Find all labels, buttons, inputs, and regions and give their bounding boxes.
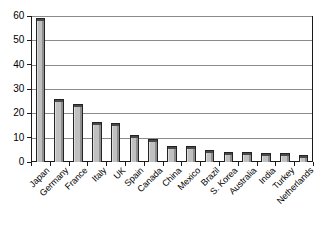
bar bbox=[299, 155, 309, 162]
bar-slot bbox=[73, 16, 83, 162]
bar-top-cap bbox=[37, 19, 45, 21]
bar bbox=[205, 150, 215, 162]
bar bbox=[148, 139, 158, 162]
y-tick-label: 0 bbox=[19, 157, 24, 167]
bar-shading bbox=[61, 100, 63, 162]
bar bbox=[242, 152, 252, 162]
y-tick-label: 20 bbox=[13, 108, 24, 118]
bar-shading bbox=[174, 147, 176, 162]
bar bbox=[130, 135, 140, 162]
bar-shading bbox=[42, 19, 44, 162]
bar-slot bbox=[111, 16, 121, 162]
bar bbox=[54, 99, 64, 162]
bar-shading bbox=[155, 140, 157, 162]
bar-top-cap bbox=[168, 147, 176, 149]
bar-highlight bbox=[187, 147, 188, 162]
bar-chart: 0102030405060 JapanGermanyFranceItalyUKS… bbox=[0, 0, 331, 232]
x-tick-label: Italy bbox=[90, 166, 108, 184]
bar-highlight bbox=[168, 147, 169, 162]
bar-shading bbox=[80, 105, 82, 162]
bar-slot bbox=[299, 16, 309, 162]
bar bbox=[73, 104, 83, 162]
bar-highlight bbox=[74, 105, 75, 162]
bar-top-cap bbox=[300, 156, 308, 158]
bar-highlight bbox=[112, 124, 113, 162]
y-tick-label: 50 bbox=[13, 35, 24, 45]
bar bbox=[261, 153, 271, 162]
bar-shading bbox=[99, 123, 101, 162]
bar-slot bbox=[36, 16, 46, 162]
bar bbox=[92, 122, 102, 162]
bar-shading bbox=[136, 136, 138, 162]
bar-slot bbox=[92, 16, 102, 162]
bar-slot bbox=[148, 16, 158, 162]
bar-highlight bbox=[149, 140, 150, 162]
bar-top-cap bbox=[262, 154, 270, 156]
bar-top-cap bbox=[131, 136, 139, 138]
bar-slot bbox=[205, 16, 215, 162]
bar-slot bbox=[186, 16, 196, 162]
bar-highlight bbox=[55, 100, 56, 162]
bar bbox=[167, 146, 177, 162]
bar-series bbox=[31, 16, 313, 162]
bar-top-cap bbox=[187, 147, 195, 149]
bar bbox=[280, 153, 290, 162]
bar-slot bbox=[242, 16, 252, 162]
bar bbox=[224, 152, 234, 162]
bar-top-cap bbox=[74, 105, 82, 107]
bar-top-cap bbox=[206, 151, 214, 153]
bar-shading bbox=[193, 147, 195, 162]
bar bbox=[36, 18, 46, 162]
bar-shading bbox=[117, 124, 119, 162]
y-axis: 0102030405060 bbox=[0, 0, 31, 232]
y-tick-label: 10 bbox=[13, 133, 24, 143]
bar-highlight bbox=[37, 19, 38, 162]
bar-top-cap bbox=[225, 153, 233, 155]
bar-slot bbox=[130, 16, 140, 162]
bar-top-cap bbox=[281, 154, 289, 156]
y-tick-label: 40 bbox=[13, 60, 24, 70]
bar-slot bbox=[280, 16, 290, 162]
y-tick-label: 30 bbox=[13, 84, 24, 94]
y-tick-label: 60 bbox=[13, 11, 24, 21]
bar bbox=[111, 123, 121, 162]
x-axis-labels: JapanGermanyFranceItalyUKSpainCanadaChin… bbox=[31, 166, 331, 232]
bar-slot bbox=[54, 16, 64, 162]
bar-top-cap bbox=[149, 140, 157, 142]
bar-highlight bbox=[131, 136, 132, 162]
bar-slot bbox=[167, 16, 177, 162]
bar-top-cap bbox=[93, 123, 101, 125]
bar-top-cap bbox=[112, 124, 120, 126]
bar-slot bbox=[224, 16, 234, 162]
bar-highlight bbox=[93, 123, 94, 162]
bar bbox=[186, 146, 196, 162]
bar-top-cap bbox=[55, 100, 63, 102]
bar-slot bbox=[261, 16, 271, 162]
bar-top-cap bbox=[243, 153, 251, 155]
